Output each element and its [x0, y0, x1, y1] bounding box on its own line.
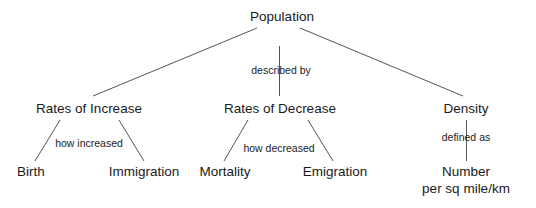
link-how-increased: how increased: [55, 137, 123, 149]
edge-decrease-mortality: [224, 120, 248, 161]
node-birth: Birth: [17, 164, 45, 180]
node-rates-of-decrease: Rates of Decrease: [224, 101, 336, 117]
node-emigration: Emigration: [303, 164, 368, 180]
edge-decrease-emigration: [308, 120, 333, 161]
node-population: Population: [250, 9, 314, 25]
edge-population-increase: [93, 28, 257, 96]
link-defined-as: defined as: [442, 131, 490, 143]
node-density: Density: [443, 101, 488, 117]
edge-population-density: [300, 28, 463, 96]
node-mortality: Mortality: [199, 164, 250, 180]
link-how-decreased: how decreased: [243, 142, 314, 154]
node-rates-of-increase: Rates of Increase: [36, 101, 142, 117]
node-immigration: Immigration: [109, 164, 180, 180]
node-per-sq-mile-km: per sq mile/km: [422, 181, 510, 197]
link-described-by: described by: [251, 64, 311, 76]
node-number: Number: [442, 164, 490, 180]
